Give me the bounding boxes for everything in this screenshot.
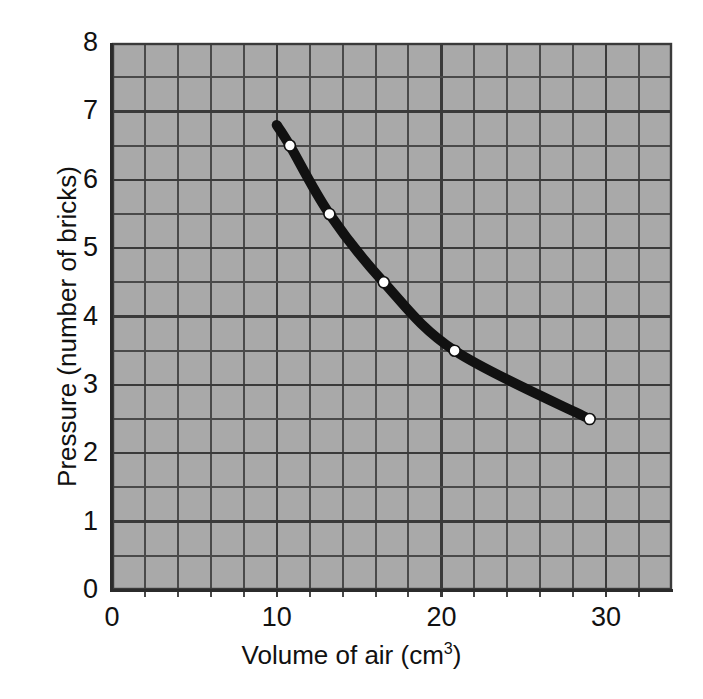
data-point-marker (284, 140, 295, 151)
x-tick-label: 0 (82, 604, 142, 631)
x-tick-label: 30 (576, 604, 636, 631)
x-axis-line (112, 589, 673, 592)
x-axis-title: Volume of air (cm3) (0, 640, 703, 671)
data-point-marker (584, 414, 595, 425)
x-axis-title-tail: ) (453, 640, 462, 670)
x-axis-title-main: Volume of air (cm (242, 640, 444, 670)
chart-figure: 012345678 0102030 Volume of air (cm3) Pr… (0, 0, 703, 699)
data-point-marker (449, 345, 460, 356)
data-point-marker (378, 277, 389, 288)
plot-area (112, 43, 672, 590)
y-axis-title: Pressure (number of bricks) (52, 47, 83, 607)
x-axis-title-superscript: 3 (444, 639, 453, 657)
y-axis-line (110, 43, 113, 592)
data-point-marker (324, 208, 335, 219)
x-tick-label: 10 (247, 604, 307, 631)
series-path (277, 125, 590, 419)
data-series-line (112, 43, 672, 590)
x-tick-label: 20 (411, 604, 471, 631)
